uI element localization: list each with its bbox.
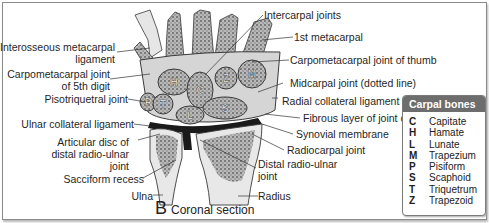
label-ulnar-collateral-ligament: Ulnar collateral ligament [21, 118, 134, 130]
label-sacciform-recess: Sacciform recess [63, 173, 144, 185]
label-interosseous-metacarpal-ligament: Interosseous metacarpal ligament [0, 41, 115, 65]
figure-caption: BCoronal section [155, 198, 254, 219]
label-radiocarpal-joint: Radiocarpal joint [287, 144, 365, 156]
legend-item: CCapitate [409, 116, 485, 127]
label-radius: Radius [258, 190, 291, 202]
legend-item: TTriquetrum [409, 184, 485, 195]
label-intercarpal-joints: Intercarpal joints [264, 9, 341, 21]
label-ulna: Ulna [131, 190, 153, 202]
marker-p: P [145, 97, 152, 108]
marker-m: M [248, 69, 256, 80]
label-radial-collateral-ligament: Radial collateral ligament [282, 95, 399, 107]
label-distal-radio-ulnar-joint: Distal radio-ulnar joint [258, 158, 337, 182]
label-carpometacarpal-joint-5th-digit: Carpometacarpal joint of 5th digit [7, 68, 110, 92]
marker-c: C [196, 85, 203, 96]
legend-item: PPisiform [409, 161, 485, 172]
marker-h: H [170, 77, 177, 88]
marker-z: Z [223, 73, 229, 84]
legend-item: MTrapezium [409, 150, 485, 161]
legend-title: Carpal bones [403, 96, 485, 112]
label-midcarpal-joint: Midcarpal joint (dotted line) [290, 77, 416, 89]
legend-item: LLunate [409, 139, 485, 150]
legend-item: SScaphoid [409, 172, 485, 183]
label-1st-metacarpal: 1st metacarpal [294, 31, 363, 43]
marker-l: L [187, 110, 193, 121]
marker-t: T [160, 99, 166, 110]
legend-item: ZTrapezoid [409, 195, 485, 206]
panel-title: Coronal section [171, 203, 254, 217]
label-synovial-membrane: Synovial membrane [296, 128, 389, 140]
label-articular-disc: Articular disc of distal radio-ulnar joi… [51, 136, 129, 172]
legend-item: HHamate [409, 127, 485, 138]
label-pisotriquetral-joint: Pisotriquetral joint [45, 93, 128, 105]
panel-letter: B [155, 198, 167, 218]
carpal-bones-legend: Carpal bones CCapitate HHamate LLunate M… [402, 95, 486, 216]
marker-s: S [222, 103, 229, 114]
label-carpometacarpal-joint-thumb: Carpometacarpal joint of thumb [290, 54, 437, 66]
